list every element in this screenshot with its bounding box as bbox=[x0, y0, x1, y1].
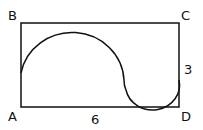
vertex-label-d: D bbox=[181, 109, 191, 124]
bottom-length-label: 6 bbox=[91, 112, 99, 127]
geometry-diagram: B C A D 6 3 bbox=[0, 0, 203, 130]
vertex-label-b: B bbox=[8, 8, 17, 23]
rectangle-abcd bbox=[21, 23, 179, 107]
vertex-label-a: A bbox=[8, 109, 17, 124]
right-length-label: 3 bbox=[184, 62, 192, 77]
vertex-label-c: C bbox=[181, 8, 190, 23]
s-curve bbox=[21, 32, 180, 110]
